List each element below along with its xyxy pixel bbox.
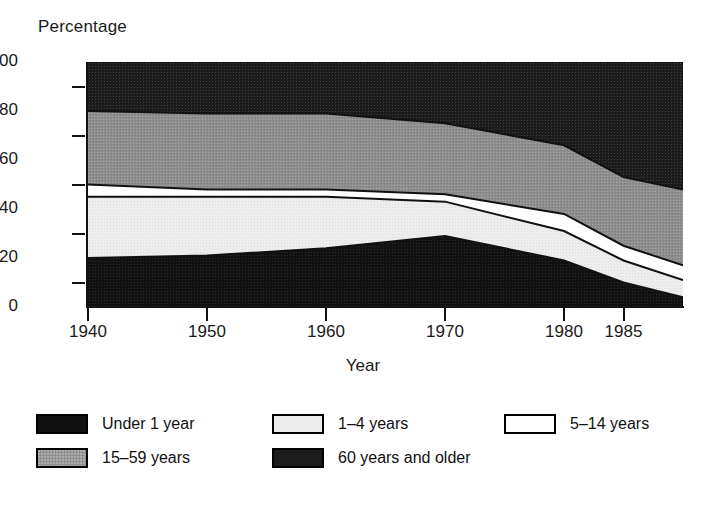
legend-item[interactable]: Under 1 year [36,414,195,434]
y-minor-tick-mark [72,86,85,88]
x-tick-mark [325,308,327,321]
plot-svg [88,62,683,307]
y-minor-tick-mark [72,135,85,137]
y-tick-label: 60 [0,149,18,169]
y-tick-label: 80 [0,100,18,120]
legend-swatch-white [504,414,556,434]
legend-label: 1–4 years [338,415,408,433]
legend-swatch-light [272,414,324,434]
legend-swatch-gray [36,448,88,468]
legend-swatch-black [36,414,88,434]
y-minor-tick-mark [72,233,85,235]
x-tick-label: 1985 [605,322,643,342]
x-tick-label: 1940 [69,322,107,342]
legend-swatch-verydark [272,448,324,468]
legend-item[interactable]: 1–4 years [272,414,408,434]
legend-label: 15–59 years [102,449,190,467]
x-tick-mark [623,308,625,321]
chart-legend: Under 1 year1–4 years5–14 years15–59 yea… [36,414,686,482]
legend-row: Under 1 year1–4 years5–14 years [36,414,686,438]
y-tick-label: 100 [0,51,18,71]
y-minor-tick-mark [72,282,85,284]
legend-label: 5–14 years [570,415,649,433]
x-tick-label: 1980 [545,322,583,342]
y-tick-label: 40 [0,198,18,218]
x-tick-label: 1950 [188,322,226,342]
y-tick-label: 0 [9,296,18,316]
legend-item[interactable]: 5–14 years [504,414,649,434]
legend-item[interactable]: 60 years and older [272,448,471,468]
x-tick-label: 1960 [307,322,345,342]
legend-item[interactable]: 15–59 years [36,448,190,468]
legend-label: Under 1 year [102,415,195,433]
legend-row: 15–59 years60 years and older [36,448,686,472]
y-tick-label: 20 [0,247,18,267]
x-tick-mark [444,308,446,321]
stacked-area-plot [88,62,683,307]
x-tick-mark [87,308,89,321]
x-tick-mark [563,308,565,321]
legend-label: 60 years and older [338,449,471,467]
chart-page: Percentage 100806040200 [0,0,726,512]
x-axis-title: Year [0,356,726,376]
x-tick-mark [206,308,208,321]
y-minor-tick-mark [72,184,85,186]
x-tick-label: 1970 [426,322,464,342]
